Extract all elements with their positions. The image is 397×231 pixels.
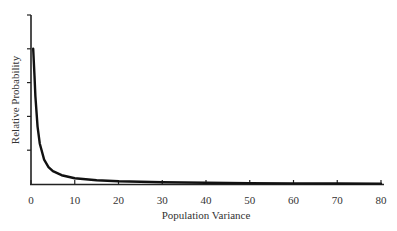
x-tick-label: 70 (332, 194, 344, 206)
x-tick-label: 60 (288, 194, 300, 206)
x-tick-label: 40 (201, 194, 213, 206)
y-axis (27, 15, 31, 185)
x-tick-label: 30 (157, 194, 169, 206)
x-axis-label: Population Variance (162, 209, 251, 221)
density-curve (33, 49, 381, 184)
x-tick-label: 0 (28, 194, 34, 206)
x-tick-label: 80 (376, 194, 388, 206)
x-tick-label: 10 (69, 194, 81, 206)
chart: 01020304050607080 Population Variance Re… (0, 0, 397, 231)
x-tick-label: 20 (113, 194, 125, 206)
x-tick-label: 50 (244, 194, 256, 206)
y-axis-label: Relative Probability (9, 55, 21, 144)
